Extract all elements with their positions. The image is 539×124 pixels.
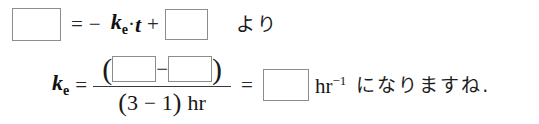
japanese-sentence-narimasune: になりますね.	[356, 76, 490, 95]
rate-constant-letter: k	[52, 70, 63, 95]
denominator-open-paren: (	[118, 90, 127, 116]
equation-line-1: = − ke · t + より	[12, 8, 278, 41]
japanese-connective-yori: より	[236, 15, 278, 34]
rate-constant-symbol-line1: ke	[111, 11, 128, 37]
numerator-open-paren: (	[102, 54, 112, 84]
numerator-minus-sign: −	[156, 59, 168, 80]
fraction-numerator: ( − )	[99, 54, 225, 86]
blank-input-numerator-first[interactable]	[112, 56, 156, 82]
denominator-close-paren: )	[173, 90, 182, 116]
denominator-value-b: 1	[162, 92, 173, 114]
time-variable-line1: t	[135, 14, 141, 36]
numerator-close-paren: )	[212, 54, 222, 84]
fraction-denominator: ( 3 − 1 ) hr	[115, 87, 209, 116]
denominator-value-a: 3	[127, 92, 138, 114]
rate-constant-letter: k	[111, 9, 122, 34]
plus-sign-line1: +	[147, 14, 159, 35]
answer-unit-base: hr	[315, 74, 333, 98]
minus-sign-line1: −	[89, 14, 101, 35]
blank-input-answer[interactable]	[263, 69, 309, 101]
equals-sign-line1: =	[71, 14, 83, 35]
worksheet-canvas: = − ke · t + より ke = ( − )	[0, 0, 539, 124]
blank-input-intercept[interactable]	[165, 9, 208, 40]
multiplication-dot-line1: ·	[128, 14, 135, 35]
blank-input-numerator-second[interactable]	[168, 56, 212, 82]
denominator-minus-sign: −	[144, 93, 156, 114]
equals-sign-line2-first: =	[75, 75, 87, 96]
answer-unit-exponent: −1	[332, 73, 346, 88]
rate-constant-subscript: e	[63, 83, 69, 98]
answer-unit-inverse-hour: hr−1	[315, 74, 346, 97]
rate-constant-fraction: ( − ) ( 3 − 1 ) hr	[93, 54, 231, 116]
equals-sign-line2-second: =	[241, 75, 253, 96]
denominator-unit-hr: hr	[187, 92, 205, 114]
rate-constant-symbol-line2: ke	[52, 72, 69, 98]
equation-line-2: ke = ( − ) ( 3 − 1 ) hr	[52, 54, 490, 116]
blank-input-concentration-lhs[interactable]	[12, 8, 61, 41]
